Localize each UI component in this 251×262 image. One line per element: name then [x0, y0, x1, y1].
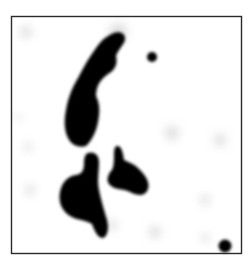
background: [0, 0, 251, 262]
upper-small-dot: [147, 52, 157, 62]
bottom-right-dot: [219, 240, 232, 253]
blot-figure: [0, 0, 251, 262]
blot-image: [0, 0, 251, 262]
